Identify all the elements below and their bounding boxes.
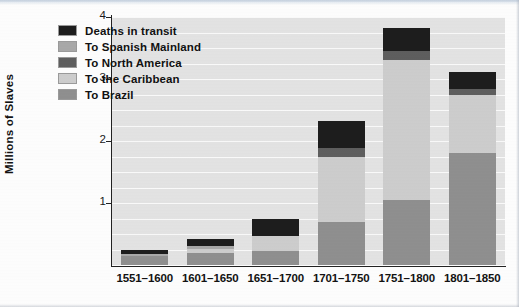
- y-tick-label: 4: [0, 9, 116, 21]
- gridline: [112, 234, 505, 235]
- gridline: [112, 250, 505, 251]
- bar-1601-1650: [187, 239, 234, 265]
- bar-segment-deaths-in-transit: [252, 219, 299, 236]
- legend-label: To Brazil: [85, 89, 134, 101]
- legend-swatch-to-spanish-mainland: [58, 41, 77, 52]
- gridline: [112, 219, 505, 220]
- bar-segment-deaths-in-transit: [187, 239, 234, 246]
- bar-segment-to-brazil: [121, 256, 168, 265]
- x-tick-label: 1801–1850: [432, 272, 512, 284]
- legend-swatch-deaths-in-transit: [58, 25, 77, 36]
- gridline: [112, 126, 505, 127]
- bar-segment-to-brazil: [449, 153, 496, 265]
- gridline: [112, 203, 505, 204]
- legend-item: Deaths in transit: [58, 24, 201, 37]
- gridline: [112, 141, 505, 142]
- legend-label: Deaths in transit: [85, 25, 177, 37]
- x-axis-line: [111, 266, 506, 267]
- bar-segment-deaths-in-transit: [449, 72, 496, 89]
- bar-1801-1850: [449, 72, 496, 265]
- bar-segment-deaths-in-transit: [318, 121, 365, 148]
- chart-legend: Deaths in transit To Spanish Mainland To…: [58, 24, 201, 101]
- scan-artifact-top-band: [0, 0, 519, 5]
- y-tick-label: 2: [0, 133, 116, 145]
- bar-1701-1750: [318, 121, 365, 265]
- legend-swatch-to-the-caribbean: [58, 73, 77, 84]
- gridline: [112, 172, 505, 173]
- y-tick-label: 1: [0, 195, 116, 207]
- bar-1551-1600: [121, 250, 168, 265]
- legend-item: To the Caribbean: [58, 72, 201, 85]
- gridline: [112, 110, 505, 111]
- bar-segment-deaths-in-transit: [383, 28, 430, 50]
- legend-swatch-to-brazil: [58, 89, 77, 100]
- bar-segment-to-brazil: [318, 222, 365, 265]
- legend-label: To North America: [85, 57, 182, 69]
- scanned-page: Millions of Slaves 1234 1551–16001601–16…: [0, 0, 519, 307]
- gridline: [112, 188, 505, 189]
- bar-segment-to-the-caribbean: [449, 95, 496, 154]
- legend-item: To North America: [58, 56, 201, 69]
- bar-1651-1700: [252, 219, 299, 265]
- bar-segment-to-brazil: [383, 200, 430, 265]
- legend-label: To Spanish Mainland: [85, 41, 201, 53]
- bar-segment-to-north-america: [318, 148, 365, 157]
- bar-segment-to-north-america: [383, 51, 430, 61]
- bar-segment-to-brazil: [252, 251, 299, 265]
- bar-segment-to-the-caribbean: [252, 236, 299, 252]
- legend-swatch-to-north-america: [58, 57, 77, 68]
- bar-1751-1800: [383, 28, 430, 265]
- bar-segment-to-brazil: [187, 253, 234, 265]
- bar-segment-to-the-caribbean: [383, 60, 430, 200]
- y-axis-title: Millions of Slaves: [3, 39, 15, 209]
- bar-segment-to-the-caribbean: [318, 157, 365, 222]
- gridline: [112, 157, 505, 158]
- gridline: [112, 17, 505, 18]
- legend-label: To the Caribbean: [85, 73, 180, 85]
- legend-item: To Brazil: [58, 88, 201, 101]
- legend-item: To Spanish Mainland: [58, 40, 201, 53]
